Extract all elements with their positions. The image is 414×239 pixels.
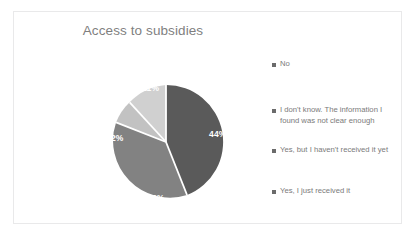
legend-item-label: No [280,59,290,70]
pie-slice-label-no: 44% [209,129,227,139]
chart-container: Access to subsidies 44% 23% 22% 11% [13,11,402,224]
legend-item-label: Yes, I just received it [280,186,350,197]
pie-slice-label-i-dont-know: 23% [147,193,165,203]
legend-item-label: I don't know. The information I found wa… [280,105,400,126]
legend-marker-icon [272,109,276,113]
legend-item-yes-just-received[interactable]: Yes, I just received it [272,186,400,197]
legend-item-yes-not-received[interactable]: Yes, but I haven't received it yet [272,145,400,156]
legend-marker-icon [272,190,276,194]
legend-item-no[interactable]: No [272,59,400,70]
legend-item-label: Yes, but I haven't received it yet [280,145,388,156]
pie-slice-label-yes-just-received: 11% [142,83,159,93]
pie-plot-area: 44% 23% 22% 11% [14,12,272,223]
legend-item-i-dont-know[interactable]: I don't know. The information I found wa… [272,105,400,126]
legend-marker-icon [272,149,276,153]
pie-chart-svg [106,82,226,202]
pie-slice-label-yes-not-received: 22% [106,133,124,143]
chart-legend: No I don't know. The information I found… [272,12,403,223]
legend-marker-icon [272,63,276,67]
